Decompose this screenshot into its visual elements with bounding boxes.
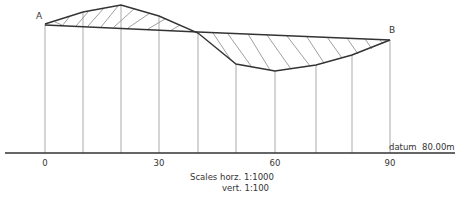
point-a-label: A — [36, 11, 43, 21]
tick-label-0: 0 — [42, 158, 47, 168]
point-b-label: B — [389, 25, 395, 35]
formation-line — [45, 25, 390, 40]
scale-vertical: vert. 1:100 — [222, 183, 269, 193]
tick-label-60: 60 — [270, 158, 281, 168]
datum-label: datum 80.00m — [389, 142, 455, 152]
hatching-area-1 — [55, 6, 180, 31]
tick-label-90: 90 — [385, 158, 396, 168]
tick-label-30: 30 — [154, 158, 165, 168]
section-diagram: A B datum 80.00m 0 30 60 90 Scales horz.… — [0, 0, 458, 202]
scale-horizontal: Scales horz. 1:1000 — [190, 172, 274, 182]
